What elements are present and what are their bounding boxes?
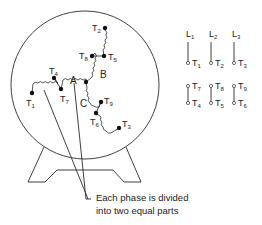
terminal-labels: T1 T4 T7 T2 T8 T5 T9 T6 T3 [26, 23, 132, 130]
chart-row2-t5: T5 [215, 98, 225, 109]
chart-row2-t9: T9 [238, 81, 248, 92]
label-t5: T5 [108, 52, 118, 63]
chart-row1-t3: T3 [238, 58, 248, 69]
chart-row2-t7: T7 [192, 81, 202, 92]
motor-stand [28, 147, 141, 182]
label-t4: T4 [49, 66, 59, 77]
connection-chart: L1 L2 L3 T1 T2 T3 T7 T8 T9 T4 T5 T6 [186, 29, 248, 109]
label-t7: T7 [60, 94, 70, 105]
terminal-dot-t1 [30, 91, 34, 95]
chart-row2-t4: T4 [192, 98, 202, 109]
motor-winding-diagram: T1 T4 T7 T2 T8 T5 T9 T6 T3 A B C Each ph… [0, 0, 262, 225]
terminal-dot-t9 [99, 100, 103, 104]
caption-line-1: Each phase is divided [96, 192, 188, 203]
label-t8: T8 [79, 51, 89, 62]
phase-label-c: C [80, 98, 87, 109]
label-t6: T6 [90, 117, 100, 128]
chart-row2-t8: T8 [215, 81, 225, 92]
terminal-dot-t6 [94, 111, 98, 115]
caption-line-2: into two equal parts [96, 205, 179, 216]
label-t2: T2 [92, 23, 102, 34]
phase-label-b: B [100, 69, 107, 80]
terminal-dot-t5 [102, 54, 106, 58]
chart-row2-t6: T6 [238, 98, 248, 109]
terminal-dot-t2 [103, 26, 107, 30]
label-t1: T1 [26, 98, 36, 109]
chart-row1-t1: T1 [192, 58, 202, 69]
terminal-dot-center [84, 80, 88, 84]
chart-label-l3: L3 [232, 29, 241, 40]
phase-a-winding [32, 78, 87, 93]
terminal-dot-t3 [117, 126, 121, 130]
chart-label-l2: L2 [209, 29, 218, 40]
terminal-dot-t7 [59, 87, 63, 91]
label-t9: T9 [104, 96, 114, 107]
phase-label-a: A [70, 75, 77, 86]
chart-label-l1: L1 [186, 29, 195, 40]
label-t3: T3 [122, 119, 132, 130]
terminal-dot-t8 [90, 54, 94, 58]
chart-row1-t2: T2 [215, 58, 225, 69]
